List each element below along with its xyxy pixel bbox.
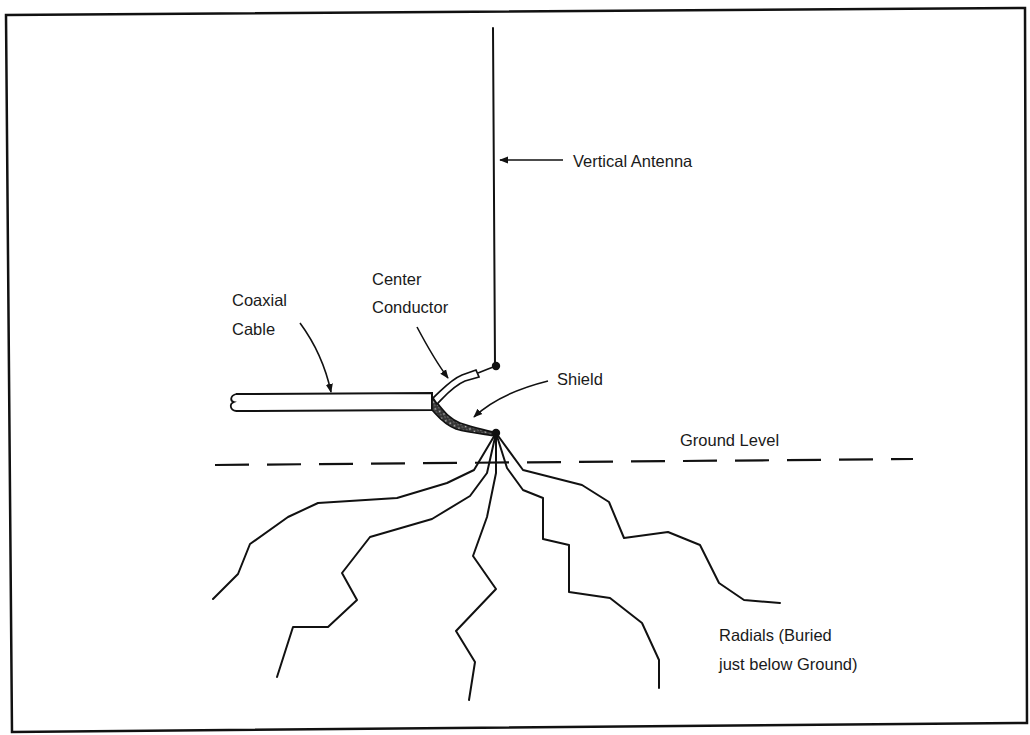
shield-label: Shield bbox=[557, 370, 603, 388]
center-conductor-callout: Center Conductor bbox=[372, 270, 449, 378]
radial-4 bbox=[496, 433, 659, 688]
center-conductor bbox=[433, 366, 496, 404]
antenna-diagram: Vertical Antenna Coaxial Cable Center Co… bbox=[0, 0, 1030, 735]
coaxial-cable-callout: Coaxial Cable bbox=[232, 291, 331, 392]
radials-callout: Radials (Buried just below Ground) bbox=[718, 626, 858, 673]
center-conductor-label-line1: Center bbox=[372, 270, 422, 288]
vertical-antenna bbox=[492, 28, 500, 370]
radial-5 bbox=[496, 433, 780, 603]
coaxial-label-line2: Cable bbox=[232, 320, 275, 338]
radial-2 bbox=[277, 433, 496, 677]
diagram-frame bbox=[6, 8, 1027, 732]
vertical-antenna-label: Vertical Antenna bbox=[573, 152, 693, 170]
shield-braid bbox=[432, 398, 496, 436]
coaxial-label-line1: Coaxial bbox=[232, 291, 287, 309]
ground-level-label: Ground Level bbox=[680, 431, 779, 449]
radials-label-line2: just below Ground) bbox=[718, 655, 858, 673]
center-conductor-label-line2: Conductor bbox=[372, 298, 449, 316]
coaxial-cable bbox=[231, 393, 432, 411]
ground-level-line: Ground Level bbox=[215, 431, 913, 465]
radials bbox=[213, 433, 780, 700]
radial-1 bbox=[213, 433, 496, 599]
shield-callout: Shield bbox=[474, 370, 603, 417]
radial-3 bbox=[456, 433, 496, 700]
vertical-antenna-callout: Vertical Antenna bbox=[500, 152, 693, 170]
radials-label-line1: Radials (Buried bbox=[719, 626, 832, 644]
